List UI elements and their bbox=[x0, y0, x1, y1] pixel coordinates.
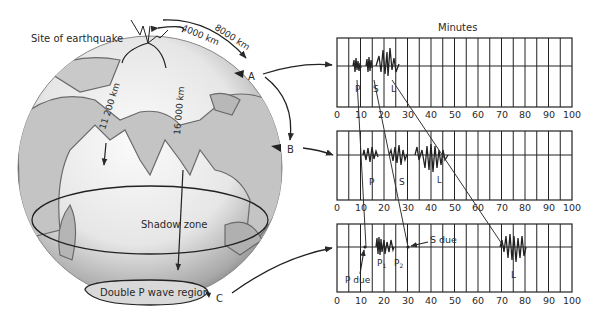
svg-text:50: 50 bbox=[449, 295, 461, 306]
svg-text:S: S bbox=[399, 177, 405, 187]
station-b-label: B bbox=[287, 144, 294, 155]
svg-text:40: 40 bbox=[425, 295, 437, 306]
svg-text:10: 10 bbox=[355, 202, 367, 213]
svg-text:P due: P due bbox=[345, 275, 371, 285]
svg-text:30: 30 bbox=[402, 202, 414, 213]
svg-text:0: 0 bbox=[334, 109, 340, 120]
svg-text:90: 90 bbox=[543, 295, 555, 306]
svg-text:70: 70 bbox=[496, 202, 508, 213]
svg-text:10: 10 bbox=[355, 109, 367, 120]
svg-text:70: 70 bbox=[496, 295, 508, 306]
seismic-diagram: Site of earthquake 4000 km 8000 km 11 20… bbox=[0, 0, 598, 322]
svg-text:10: 10 bbox=[355, 295, 367, 306]
svg-text:20: 20 bbox=[378, 202, 390, 213]
station-a-label: A bbox=[248, 71, 255, 82]
svg-text:60: 60 bbox=[472, 109, 484, 120]
svg-text:100: 100 bbox=[563, 109, 581, 120]
svg-text:80: 80 bbox=[519, 295, 531, 306]
svg-text:100: 100 bbox=[563, 202, 581, 213]
chart-a-ticks: 010 2030 4050 6070 8090 100 bbox=[334, 109, 581, 120]
svg-text:100: 100 bbox=[563, 295, 581, 306]
svg-text:40: 40 bbox=[425, 202, 437, 213]
svg-text:60: 60 bbox=[472, 295, 484, 306]
svg-text:90: 90 bbox=[543, 202, 555, 213]
svg-text:80: 80 bbox=[519, 202, 531, 213]
chart-b-ticks: 010 2030 4050 6070 8090 100 bbox=[334, 202, 581, 213]
svg-text:50: 50 bbox=[449, 109, 461, 120]
svg-text:80: 80 bbox=[519, 109, 531, 120]
svg-text:L: L bbox=[511, 270, 516, 280]
svg-text:40: 40 bbox=[425, 109, 437, 120]
station-c-label: C bbox=[216, 293, 223, 304]
minutes-title: Minutes bbox=[438, 22, 477, 33]
seismogram-a: P S L bbox=[337, 38, 572, 107]
svg-text:L: L bbox=[437, 176, 442, 185]
site-of-earthquake-label: Site of earthquake bbox=[31, 33, 123, 44]
svg-text:0: 0 bbox=[334, 295, 340, 306]
seismogram-c: P due P1 P2 S due L bbox=[337, 224, 572, 292]
seismogram-b: P S L bbox=[337, 131, 572, 200]
svg-text:30: 30 bbox=[402, 295, 414, 306]
svg-text:S due: S due bbox=[430, 234, 457, 245]
svg-text:20: 20 bbox=[378, 295, 390, 306]
svg-text:0: 0 bbox=[334, 202, 340, 213]
double-p-wave-label: Double P wave region bbox=[100, 287, 209, 298]
svg-text:P: P bbox=[369, 177, 375, 187]
svg-text:50: 50 bbox=[449, 202, 461, 213]
chart-c-ticks: 010 2030 4050 6070 8090 100 bbox=[334, 295, 581, 306]
svg-text:70: 70 bbox=[496, 109, 508, 120]
svg-text:90: 90 bbox=[543, 109, 555, 120]
shadow-zone-label: Shadow zone bbox=[141, 219, 208, 230]
